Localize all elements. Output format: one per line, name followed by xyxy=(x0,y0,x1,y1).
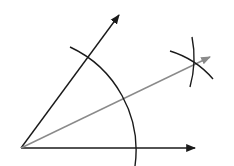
construction-arc-2 xyxy=(170,51,213,79)
upper-ray xyxy=(21,15,119,148)
angle-bisector-diagram xyxy=(0,0,234,166)
bisector-ray xyxy=(21,57,210,148)
